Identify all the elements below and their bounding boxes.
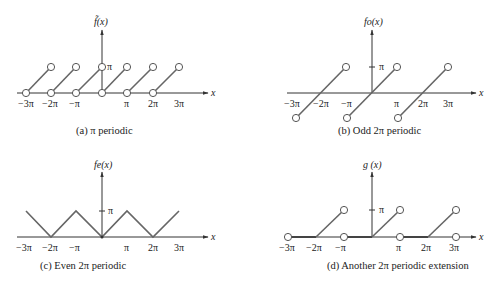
tick-label: 3π [443, 98, 453, 109]
pi-tick-label: π [107, 61, 112, 72]
x-axis-label: x [478, 87, 484, 98]
tick-label: −2π [42, 98, 58, 109]
ramp-segments [316, 210, 456, 237]
tick-label: 2π [421, 242, 431, 253]
tick-label: π [396, 242, 401, 253]
pi-tick-label: π [379, 61, 384, 72]
tick-label: −π [335, 242, 346, 253]
y-axis-label: g (x) [363, 159, 382, 171]
tick-label: π [394, 98, 399, 109]
panel-a: f̃(x) x π −3π −2π −π π 2π 3π (a) π perio… [17, 15, 216, 137]
x-axis-label: x [210, 87, 216, 98]
tick-label: −3π [279, 242, 295, 253]
tick-label: −2π [306, 242, 322, 253]
tick-label: 3π [449, 242, 459, 253]
tick-label: −2π [42, 242, 58, 253]
panel-c: fe(x) x π −3π −2π −π π 2π 3π (c) Even 2π… [16, 159, 216, 272]
tick-label: 3π [174, 242, 184, 253]
caption: (b) Odd 2π periodic [338, 125, 421, 137]
tick-label: 2π [148, 98, 158, 109]
x-axis-label: x [478, 231, 484, 242]
caption: (a) π periodic [76, 125, 133, 137]
tick-label: 3π [174, 98, 184, 109]
tick-label: −π [69, 242, 80, 253]
panel-d: g (x) x π −3π −2π −π π 2π 3π (d) Another… [279, 159, 484, 272]
tick-label: 2π [148, 242, 158, 253]
panel-b: fo(x) x π −3π −2π −π π 2π 3π (b) Odd 2π … [284, 16, 484, 137]
tick-label: −3π [16, 242, 32, 253]
y-axis-label: f̃(x) [94, 15, 109, 28]
tick-label: −3π [284, 98, 300, 109]
pi-tick-label: π [108, 205, 113, 216]
tick-label: π [124, 98, 129, 109]
tick-label: −2π [313, 98, 329, 109]
origin-dot [101, 236, 104, 239]
figure: f̃(x) x π −3π −2π −π π 2π 3π (a) π perio… [0, 0, 492, 284]
y-axis-label: fo(x) [364, 16, 384, 28]
caption: (c) Even 2π periodic [40, 260, 126, 272]
tick-label: −3π [18, 98, 34, 109]
y-axis-label: fe(x) [94, 159, 113, 171]
tick-label: −π [341, 98, 352, 109]
tick-label: −π [69, 98, 80, 109]
tick-label: π [124, 242, 129, 253]
tick-label: 2π [418, 98, 428, 109]
x-axis-label: x [210, 231, 216, 242]
pi-tick-label: π [379, 204, 384, 215]
caption: (d) Another 2π periodic extension [327, 260, 470, 272]
